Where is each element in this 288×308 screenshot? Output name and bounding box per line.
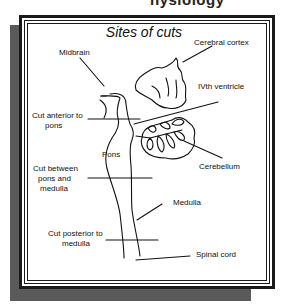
brainstem-right-outline — [110, 93, 140, 256]
label-cut-between-line2: pons and — [38, 174, 71, 184]
cortex-fold-2 — [166, 78, 169, 96]
cerebellum-leaf-6 — [172, 119, 184, 125]
label-cerebellum: Cerebellum — [199, 162, 240, 172]
cerebellum-leaf-5 — [160, 122, 170, 128]
cerebellum-leader — [184, 141, 222, 158]
label-midbrain: Midbrain — [59, 48, 90, 58]
label-cut-anterior-line1: Cut anterior to — [32, 111, 83, 121]
cerebral-cortex-leader — [183, 46, 212, 62]
label-medulla: Medulla — [173, 198, 201, 208]
label-cut-posterior-line2: medulla — [62, 239, 90, 249]
cerebellum-leaf-1 — [147, 138, 153, 150]
label-cut-between-line1: Cut between — [33, 164, 78, 174]
midbrain-inner-curve — [100, 100, 106, 118]
label-pons: Pons — [102, 150, 120, 160]
label-cut-between-line3: medulla — [40, 184, 68, 194]
label-cut-anterior-line2: pons — [45, 121, 62, 131]
cerebral-cortex-outline — [135, 58, 186, 109]
label-cerebral-cortex: Cerebral cortex — [194, 38, 249, 48]
cerebellum-leaf-3 — [166, 134, 175, 148]
cerebellum-leaf-7 — [148, 126, 156, 132]
cerebellum-leaf-2 — [157, 136, 164, 152]
brainstem-left-outline — [101, 96, 124, 258]
label-spinal-cord: Spinal cord — [196, 250, 236, 260]
cerebellum-leaf-4 — [174, 132, 184, 141]
cortex-fold-3 — [176, 80, 177, 98]
label-ivth-ventricle: IVth ventricle — [198, 82, 244, 92]
midbrain-leader — [80, 58, 104, 86]
label-cut-posterior-line1: Cut posterior to — [48, 229, 103, 239]
spinal-cord-leader — [136, 256, 190, 260]
cortex-fold-1 — [152, 86, 160, 98]
medulla-leader — [137, 204, 162, 220]
